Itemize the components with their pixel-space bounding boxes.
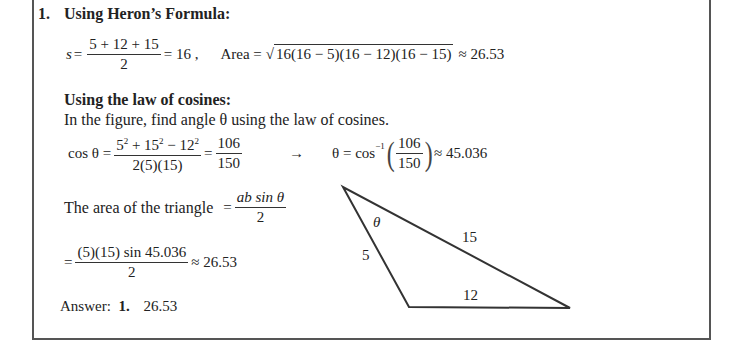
angle-theta-label: θ [373, 214, 380, 231]
triangle-figure [0, 0, 747, 355]
side-15-label: 15 [462, 229, 477, 246]
side-12-label: 12 [463, 287, 478, 304]
side-5-label: 5 [362, 247, 370, 264]
